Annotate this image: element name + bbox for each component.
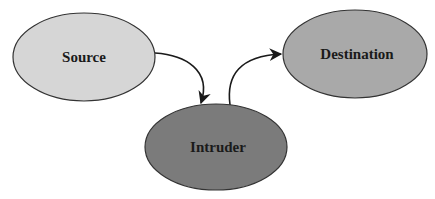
node-destination: Destination: [283, 10, 427, 98]
edge-source-to-intruder: [155, 53, 204, 103]
edge-intruder-to-destination: [229, 54, 281, 105]
destination-label: Destination: [320, 46, 394, 62]
intruder-label: Intruder: [190, 139, 246, 155]
node-intruder: Intruder: [145, 104, 287, 190]
source-label: Source: [62, 49, 106, 65]
diagram-canvas: Source Destination Intruder: [0, 0, 435, 199]
node-source: Source: [13, 13, 155, 101]
